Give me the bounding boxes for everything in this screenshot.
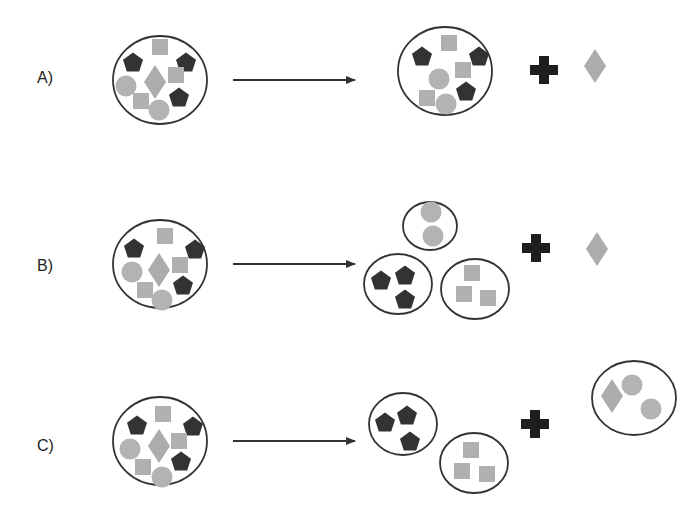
circle-icon: [152, 290, 173, 311]
square-icon: [454, 463, 470, 479]
pentagon-icon: [123, 53, 143, 72]
square-icon: [419, 90, 435, 106]
row-b: [113, 202, 608, 320]
square-icon: [137, 282, 153, 298]
row-c: [113, 361, 676, 493]
result-group-1: [369, 393, 437, 455]
cross-icon: [522, 234, 550, 262]
diamond-icon: [148, 429, 170, 463]
result-group-3: [592, 361, 676, 435]
pentagon-icon: [456, 82, 476, 101]
pentagon-icon: [124, 239, 144, 258]
square-icon: [479, 466, 495, 482]
result-group-1: [398, 27, 492, 115]
pentagon-icon: [397, 406, 417, 425]
square-icon: [456, 286, 472, 302]
pentagon-icon: [127, 416, 147, 435]
pentagon-icon: [173, 276, 193, 295]
circle-icon: [423, 226, 444, 247]
circle-icon: [421, 202, 442, 223]
circle-icon: [641, 399, 662, 420]
pentagon-icon: [171, 452, 191, 471]
circle-icon: [122, 262, 143, 283]
circle-icon: [622, 375, 643, 396]
diamond-icon: [601, 379, 623, 413]
cell-separation-diagram: A) B) C): [0, 0, 700, 511]
square-icon: [155, 406, 171, 422]
square-icon: [168, 67, 184, 83]
circle-icon: [436, 94, 457, 115]
square-icon: [152, 39, 168, 55]
original-cell: [113, 36, 207, 124]
row-label-b: B): [37, 257, 53, 274]
pentagon-icon: [395, 266, 415, 285]
row-label-c: C): [37, 437, 54, 454]
square-icon: [133, 93, 149, 109]
pentagon-icon: [395, 290, 415, 309]
cross-icon: [530, 56, 558, 84]
cross-icon: [521, 410, 549, 438]
result-group-1: [403, 202, 457, 251]
result-group-2: [440, 433, 508, 493]
square-icon: [135, 459, 151, 475]
square-icon: [157, 228, 173, 244]
pentagon-icon: [371, 271, 391, 290]
circle-icon: [120, 439, 141, 460]
square-icon: [455, 62, 471, 78]
square-icon: [480, 290, 496, 306]
circle-icon: [149, 100, 170, 121]
diamond-icon: [584, 49, 606, 83]
square-icon: [463, 442, 479, 458]
result-group-2: [364, 254, 432, 314]
square-icon: [441, 35, 457, 51]
result-group-3: [441, 259, 509, 319]
row-a: [113, 27, 606, 124]
circle-icon: [152, 467, 173, 488]
pentagon-icon: [412, 47, 432, 66]
pentagon-icon: [400, 432, 420, 451]
square-icon: [172, 257, 188, 273]
pentagon-icon: [375, 413, 395, 432]
pentagon-icon: [169, 88, 189, 107]
circle-icon: [429, 69, 450, 90]
square-icon: [464, 265, 480, 281]
original-cell: [113, 220, 207, 311]
diamond-icon: [586, 232, 608, 266]
row-label-a: A): [37, 69, 53, 86]
original-cell: [113, 397, 207, 488]
diamond-icon: [148, 253, 170, 287]
square-icon: [171, 433, 187, 449]
